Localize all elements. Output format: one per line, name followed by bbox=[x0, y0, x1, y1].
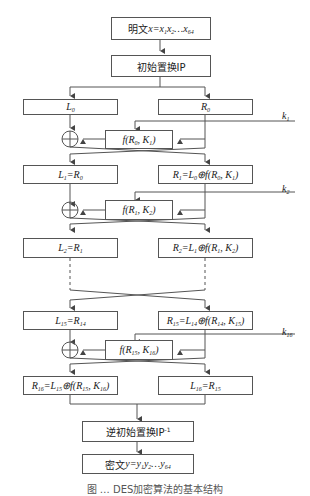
r15-label: R15=L14⊕f(R14, K15) bbox=[167, 315, 245, 327]
l0-label: L0 bbox=[66, 101, 75, 113]
l15-label: L15=R14 bbox=[55, 315, 85, 327]
initial-permutation-box: 初始置换IP bbox=[111, 55, 211, 77]
l2-box: L2=R1 bbox=[23, 238, 118, 258]
l1-label: L1=R0 bbox=[58, 169, 82, 181]
ciphertext-prefix: 密文 bbox=[105, 457, 125, 472]
ciphertext-formula: y=y1y2…y64 bbox=[125, 458, 170, 470]
l16-label: L16=R15 bbox=[190, 380, 220, 392]
l2-label: L2=R1 bbox=[58, 242, 82, 254]
l1-box: L1=R0 bbox=[23, 165, 118, 184]
plaintext-box: 明文 x=x1x2…x64 bbox=[111, 17, 211, 40]
r2-box: R2=L1⊕f(R1, K2) bbox=[158, 238, 253, 258]
f-function-box-1: f(R0, K1) bbox=[105, 130, 173, 149]
r16-box: R16=L15⊕f(R15, K16) bbox=[23, 376, 118, 395]
figure-caption: 图 … DES加密算法的基本结构 bbox=[0, 481, 310, 496]
key-label-k16: k16 bbox=[282, 326, 292, 338]
f-function-box-16: f(R15, K16) bbox=[105, 340, 173, 360]
inverse-permutation-label: 逆初始置换IP-1 bbox=[106, 424, 171, 439]
l0-box: L0 bbox=[23, 99, 118, 115]
inverse-permutation-box: 逆初始置换IP-1 bbox=[82, 421, 194, 442]
r16-label: R16=L15⊕f(R15, K16) bbox=[32, 380, 110, 392]
ciphertext-box: 密文 y=y1y2…y64 bbox=[82, 454, 194, 474]
r1-box: R1=L0⊕f(R0, K1) bbox=[158, 165, 253, 184]
f-label-16: f(R15, K16) bbox=[119, 344, 158, 356]
key-label-k2: k2 bbox=[282, 183, 289, 195]
r2-label: R2=L1⊕f(R1, K2) bbox=[173, 242, 239, 254]
plaintext-prefix: 明文 bbox=[128, 21, 148, 36]
l16-box: L16=R15 bbox=[158, 376, 253, 395]
r15-box: R15=L14⊕f(R14, K15) bbox=[158, 311, 253, 330]
f-label-2: f(R1, K2) bbox=[122, 204, 155, 216]
f-function-box-2: f(R1, K2) bbox=[105, 200, 173, 220]
r0-label: R0 bbox=[201, 101, 210, 113]
l15-box: L15=R14 bbox=[23, 311, 118, 330]
initial-permutation-label: 初始置换IP bbox=[137, 59, 186, 74]
f-label-1: f(R0, K1) bbox=[122, 134, 155, 146]
r1-label: R1=L0⊕f(R0, K1) bbox=[173, 169, 239, 181]
key-label-k1: k1 bbox=[282, 110, 289, 122]
r0-box: R0 bbox=[158, 99, 253, 115]
plaintext-formula: x=x1x2…x64 bbox=[148, 23, 193, 35]
